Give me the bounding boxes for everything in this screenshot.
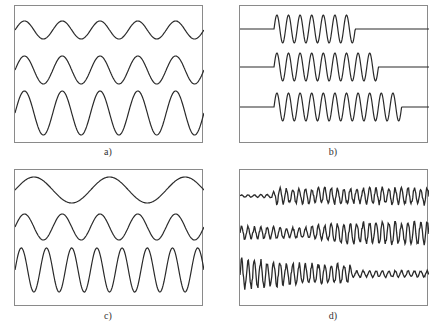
waveform-plot [15,6,204,144]
waveform-trace-2 [240,53,429,81]
waveform-plot [240,6,429,144]
waveform-trace-3 [240,93,429,121]
waveform-trace-2 [15,214,204,240]
waveform-trace-1 [240,187,429,206]
waveform-plot [15,170,204,307]
waveform-trace-1 [15,21,204,39]
panel-b [239,5,428,143]
waveform-trace-3 [240,258,429,290]
waveform-trace-2 [15,56,204,84]
panel-d [239,169,428,306]
waveform-trace-3 [15,248,204,292]
panel-label-a: a) [93,146,123,157]
waveform-trace-1 [15,177,204,203]
panel-a [14,5,203,143]
panel-label-b: b) [318,146,348,157]
panel-c [14,169,203,306]
waveform-plot [240,170,429,307]
waveform-trace-2 [240,221,429,245]
waveform-trace-1 [240,15,429,43]
panel-label-c: c) [93,310,123,321]
waveform-trace-3 [15,91,204,135]
panel-label-d: d) [318,310,348,321]
